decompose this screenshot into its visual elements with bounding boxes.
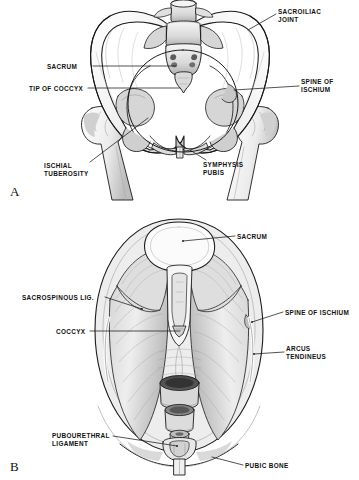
label-pubourethral-ligament: PUBOURETHRAL LIGAMENT — [52, 432, 110, 447]
panel-letter-a: A — [10, 184, 19, 200]
label-spine-of-ischium-b: SPINE OF ISCHIUM — [285, 309, 349, 317]
label-coccyx: COCCYX — [56, 328, 85, 336]
label-arcus-tendineus: ARCUS TENDINEUS — [286, 345, 326, 360]
anatomy-figure: SACROILIAC JOINT SACRUM TIP OF COCCYX SP… — [0, 0, 359, 480]
label-symphysis-pubis: SYMPHYSIS PUBIS — [203, 161, 243, 176]
label-ischial-tuberosity: ISCHIAL TUBEROSITY — [44, 162, 89, 177]
panel-a-artwork — [81, 0, 299, 200]
label-sacrum-a: SACRUM — [47, 63, 77, 71]
panel-b-artwork — [90, 219, 284, 475]
label-sacrospinous-lig: SACROSPINOUS LIG. — [22, 294, 94, 302]
panel-letter-b: B — [10, 459, 19, 475]
label-tip-of-coccyx: TIP OF COCCYX — [29, 85, 83, 93]
label-sacroiliac-joint: SACROILIAC JOINT — [278, 8, 321, 23]
label-spine-of-ischium-a: SPINE OF ISCHIUM — [301, 78, 334, 93]
label-sacrum-b: SACRUM — [237, 233, 267, 241]
anatomy-illustration — [0, 0, 359, 480]
label-pubic-bone: PUBIC BONE — [245, 462, 289, 470]
